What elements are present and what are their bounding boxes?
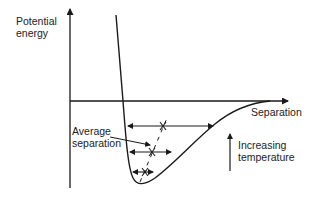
potential-energy-diagram: Potential energy Separation Average sepa… <box>0 0 323 197</box>
average-separation-label-line2: separation <box>72 137 121 149</box>
x-axis-label: Separation <box>251 106 302 118</box>
temperature-label-line2: temperature <box>238 151 295 163</box>
y-axis-label-line1: Potential <box>16 15 57 27</box>
average-separation-label-line1: Average <box>72 125 111 137</box>
temperature-label-line1: Increasing <box>238 139 287 151</box>
y-axis-label-line2: energy <box>16 27 49 39</box>
